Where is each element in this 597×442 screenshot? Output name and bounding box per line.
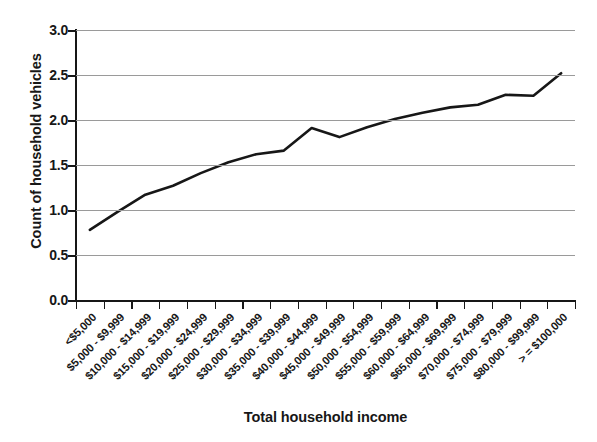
- x-axis-tick-mark: [409, 301, 410, 309]
- x-axis-tick-mark: [298, 301, 299, 309]
- x-axis-tick-mark: [381, 301, 382, 309]
- x-axis-tick-mark: [159, 301, 160, 309]
- x-axis-tick-mark: [131, 301, 132, 309]
- x-axis-title: Total household income: [76, 409, 575, 425]
- x-axis-tick-mark: [520, 301, 521, 309]
- y-axis-tick-mark: [68, 210, 76, 212]
- x-axis-tick-mark: [104, 301, 105, 309]
- y-axis-tick-mark: [68, 165, 76, 167]
- x-axis-tick-mark: [326, 301, 327, 309]
- x-axis-tick-mark: [492, 301, 493, 309]
- x-axis-tick-mark: [242, 301, 243, 309]
- x-axis-tick-mark: [575, 301, 576, 309]
- x-axis-tick-mark: [464, 301, 465, 309]
- y-axis-tick-mark: [68, 30, 76, 32]
- x-axis-tick-mark: [436, 301, 437, 309]
- x-axis-tick-mark: [187, 301, 188, 309]
- y-axis-tick-mark: [68, 255, 76, 257]
- x-axis-tick-mark: [353, 301, 354, 309]
- x-axis-tick-mark: [270, 301, 271, 309]
- x-axis-tick-mark: [76, 301, 77, 309]
- chart-container: Count of household vehicles 0.00.51.01.5…: [0, 0, 597, 442]
- x-axis-tick-mark: [215, 301, 216, 309]
- x-axis-tick-label-group: <$5,000$5,000 - $9,999$10,000 - $14,999$…: [0, 0, 597, 442]
- y-axis-tick-mark: [68, 300, 76, 302]
- y-axis-tick-mark: [68, 120, 76, 122]
- x-axis-tick-mark: [547, 301, 548, 309]
- y-axis-tick-mark: [68, 75, 76, 77]
